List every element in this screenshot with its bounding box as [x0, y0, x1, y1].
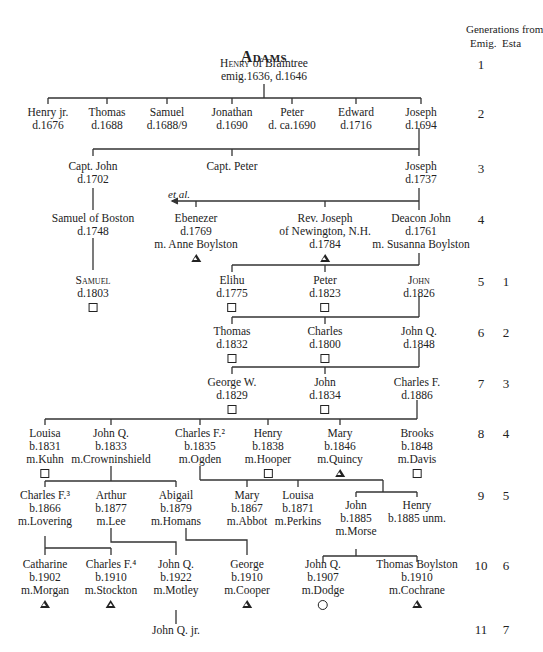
square-symbol-icon: [89, 303, 98, 312]
person-samuel-g2: Samueld.1688/9: [147, 106, 188, 132]
person-henry-g8: Henryb.1838m.Hooper: [245, 427, 291, 478]
person-george-g10: Georgeb.1910m.Cooper: [224, 558, 270, 608]
person-samuel-g5: Samueld.1803: [76, 274, 111, 312]
gen-emig-5: 5: [469, 274, 493, 290]
triangle-symbol-icon: [242, 600, 252, 608]
et-al-annotation: et al.: [168, 188, 190, 200]
person-henry-of-braintree: Henry of Braintree emig.1636, d.1646: [220, 57, 308, 83]
person-charles-f-g7: Charles F.d.1886: [394, 376, 440, 402]
generations-header: Generations from Emig. Esta: [466, 22, 543, 50]
person-ebenezer: Ebenezerd.1769m. Anne Boylston: [154, 212, 237, 262]
person-charles-f4: Charles F.⁴b.1910m.Stockton: [85, 558, 138, 608]
generations-header-label: Generations from: [466, 22, 543, 36]
emig-column-label: Emig.: [470, 37, 497, 49]
triangle-symbol-icon: [191, 254, 201, 262]
gen-esta-8: 4: [494, 426, 518, 442]
person-elihu: Elihud.1775: [216, 274, 248, 312]
person-john-q-g6: John Q.d.1848: [401, 325, 437, 351]
gen-esta-11: 7: [494, 622, 518, 638]
square-symbol-icon: [320, 354, 329, 363]
person-charles-g6: Charlesd.1800: [307, 325, 342, 363]
gen-emig-1: 1: [469, 57, 493, 73]
gen-emig-10: 10: [469, 558, 493, 574]
person-rev-joseph: Rev. Josephof Newington, N.H.d.1784: [279, 212, 371, 262]
person-thomas-g2: Thomasd.1688: [88, 106, 125, 132]
gen-esta-10: 6: [494, 558, 518, 574]
person-edward: Edwardd.1716: [338, 106, 374, 132]
triangle-symbol-icon: [412, 600, 422, 608]
person-charles-f2: Charles F.²b.1835m.Ogden: [175, 427, 225, 466]
person-abigail: Abigailb.1879m.Homans: [151, 489, 201, 528]
gen-emig-9: 9: [469, 488, 493, 504]
gen-esta-9: 5: [494, 488, 518, 504]
person-charles-f3: Charles F.³b.1866m.Lovering: [18, 489, 72, 528]
esta-column-label: Esta: [502, 37, 521, 49]
person-mary-g8: Maryb.1846m.Quincy: [317, 427, 363, 477]
gen-emig-3: 3: [469, 161, 493, 177]
triangle-symbol-icon: [320, 254, 330, 262]
person-joseph-g2: Josephd.1694: [405, 106, 437, 132]
gen-emig-7: 7: [469, 376, 493, 392]
person-peter-g2: Peterd. ca.1690: [268, 106, 316, 132]
square-symbol-icon: [228, 303, 237, 312]
person-brooks: Brooksb.1848m.Davis: [398, 427, 437, 478]
person-louisa-g9: Louisab.1871m.Perkins: [275, 489, 321, 528]
person-john-q-g8: John Q.b.1833m.Crowninshield: [71, 427, 151, 466]
person-thomas-boylston: Thomas Boylstonb.1910m.Cochrane: [376, 558, 457, 608]
gen-emig-2: 2: [469, 106, 493, 122]
person-capt-john: Capt. Johnd.1702: [68, 160, 117, 186]
square-symbol-icon: [321, 405, 330, 414]
person-john-q-jr: John Q. jr.: [152, 624, 200, 637]
triangle-symbol-icon: [40, 600, 50, 608]
gen-emig-8: 8: [469, 426, 493, 442]
circle-symbol-icon: [318, 600, 328, 610]
person-george-w: George W.d.1829: [208, 376, 257, 414]
gen-esta-5: 1: [494, 274, 518, 290]
person-henry-jr: Henry jr.d.1676: [28, 106, 69, 132]
person-deacon-john: Deacon Johnd.1761m. Susanna Boylston: [372, 212, 469, 251]
person-mary-g9: Maryb.1867m.Abbot: [227, 489, 268, 528]
person-joseph-g3: Josephd.1737: [405, 160, 437, 186]
square-symbol-icon: [264, 469, 273, 478]
gen-esta-6: 2: [494, 325, 518, 341]
person-thomas-g6: Thomasd.1832: [213, 325, 250, 363]
person-john-g7: Johnd.1834: [309, 376, 341, 414]
square-symbol-icon: [227, 405, 236, 414]
gen-esta-7: 3: [494, 376, 518, 392]
gen-emig-4: 4: [469, 212, 493, 228]
person-louisa-g8: Louisab.1831m.Kuhn: [26, 427, 63, 478]
person-capt-peter: Capt. Peter: [206, 160, 257, 173]
person-john-g9: Johnb.1885m.Morse: [335, 499, 376, 538]
person-henry-g9: Henryb.1885 unm.: [388, 499, 446, 525]
person-john-q-g10-motley: John Q.b.1922m.Motley: [153, 558, 198, 597]
person-john-q-g10-dodge: John Q.b.1907m.Dodge: [302, 558, 344, 610]
square-symbol-icon: [41, 469, 50, 478]
gen-emig-11: 11: [469, 622, 493, 638]
person-peter-g5: Peterd.1823: [309, 274, 341, 312]
triangle-symbol-icon: [335, 469, 345, 477]
person-jonathan: Jonathand.1690: [212, 106, 253, 132]
person-arthur: Arthurb.1877m.Lee: [95, 489, 127, 528]
square-symbol-icon: [228, 354, 237, 363]
square-symbol-icon: [321, 303, 330, 312]
triangle-symbol-icon: [106, 600, 116, 608]
person-samuel-of-boston: Samuel of Bostond.1748: [52, 212, 134, 238]
square-symbol-icon: [413, 469, 422, 478]
person-catharine: Catharineb.1902m.Morgan: [21, 558, 69, 608]
person-john-g5: Johnd.1826: [403, 274, 435, 300]
gen-emig-6: 6: [469, 325, 493, 341]
